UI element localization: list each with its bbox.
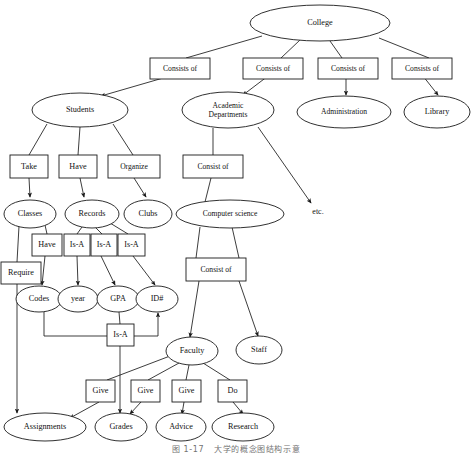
node-label: Assignments <box>24 422 66 431</box>
node-assignments[interactable]: Assignments <box>4 413 86 441</box>
node-label: Staff <box>251 345 267 354</box>
node-faculty[interactable]: Faculty <box>166 337 218 365</box>
relation-box-consists3[interactable]: Consists of <box>318 58 378 79</box>
edge-gpa-to-isa4 <box>119 312 120 324</box>
node-label: Consists of <box>405 64 439 73</box>
node-acad_dept[interactable]: AcademicDepartments <box>182 92 274 128</box>
node-year[interactable]: year <box>58 286 98 312</box>
edge-consist1-to-compsci <box>205 178 211 202</box>
node-gpa[interactable]: GPA <box>97 286 139 312</box>
node-organize[interactable]: Organize <box>108 155 160 178</box>
node-do[interactable]: Do <box>218 380 247 402</box>
node-label: Is-A <box>113 330 128 339</box>
relation-box-consists1[interactable]: Consists of <box>150 58 210 79</box>
node-label: Give <box>179 386 195 395</box>
node-isa1[interactable]: Is-A <box>64 234 90 256</box>
node-label: Consists of <box>256 64 290 73</box>
node-label: Organize <box>120 162 148 171</box>
node-consist1[interactable]: Consist of <box>183 155 243 178</box>
node-isa2[interactable]: Is-A <box>91 234 117 256</box>
figure-caption-text: 大学的概念图结构示意 <box>214 445 300 454</box>
node-have1[interactable]: Have <box>59 155 97 178</box>
edge-college-to-consists1 <box>186 36 262 58</box>
node-have2[interactable]: Have <box>32 234 62 256</box>
relation-box-consists4[interactable]: Consists of <box>392 58 452 79</box>
edge-give1-to-assignments <box>70 402 99 418</box>
node-students[interactable]: Students <box>32 93 128 127</box>
node-advice[interactable]: Advice <box>156 413 206 441</box>
node-layer: Consists ofConsists ofConsists ofConsist… <box>1 5 470 441</box>
node-label: College <box>307 18 333 27</box>
node-idnum[interactable]: ID# <box>136 286 178 312</box>
edge-give3-to-advice <box>182 402 184 414</box>
node-label: AcademicDepartments <box>209 101 248 119</box>
concept-map-diagram: Consists ofConsists ofConsists ofConsist… <box>0 0 472 454</box>
edge-faculty-to-give1 <box>107 356 170 380</box>
node-label: Take <box>21 162 37 171</box>
node-label: Classes <box>18 209 43 218</box>
edge-compsci-to-consist2 <box>196 227 200 258</box>
edge-isa2-to-gpa <box>101 256 115 285</box>
node-classes[interactable]: Classes <box>4 200 56 228</box>
node-codes[interactable]: Codes <box>16 286 62 312</box>
edge-have2-to-codes <box>42 256 45 285</box>
node-label: Research <box>228 422 258 431</box>
figure-caption: 图 1-17大学的概念图结构示意 <box>0 443 472 454</box>
node-label: Consist of <box>197 162 228 171</box>
edge-compsci-to-consist2b <box>232 227 239 258</box>
node-label: Administration <box>321 107 367 116</box>
edge-students-to-have1 <box>78 127 80 155</box>
node-isa4[interactable]: Is-A <box>107 324 134 346</box>
node-label: Require <box>8 268 34 277</box>
node-label: Is-A <box>97 240 112 249</box>
node-administration[interactable]: Administration <box>297 96 391 128</box>
free-text-layer: etc. <box>312 207 323 216</box>
node-label: Grades <box>109 422 132 431</box>
node-label: Have <box>69 162 87 171</box>
free-text-etc: etc. <box>312 207 323 216</box>
node-compsci[interactable]: Computer science <box>176 200 284 228</box>
relation-box-consists2[interactable]: Consists of <box>243 58 303 79</box>
node-label: Consists of <box>163 64 197 73</box>
edge-faculty-to-do <box>203 363 230 380</box>
edge-classes-to-require <box>17 226 19 262</box>
node-label: Do <box>227 386 237 395</box>
node-label: Have <box>38 240 56 249</box>
figure-caption-number: 图 1-17 <box>172 445 204 454</box>
node-clubs[interactable]: Clubs <box>124 200 172 228</box>
edge-classes-to-have2 <box>45 225 47 234</box>
node-label: Give <box>93 386 109 395</box>
node-give3[interactable]: Give <box>172 380 201 402</box>
node-staff[interactable]: Staff <box>236 336 282 364</box>
edge-faculty-to-give2 <box>148 363 179 380</box>
edge-do-to-research <box>233 402 243 414</box>
node-college[interactable]: College <box>250 5 390 41</box>
edge-give2-to-grades <box>130 402 141 414</box>
node-give2[interactable]: Give <box>131 380 160 402</box>
node-label: Students <box>66 105 94 114</box>
edge-consist2-to-faculty <box>190 281 199 337</box>
node-records[interactable]: Records <box>65 200 119 228</box>
node-isa3[interactable]: Is-A <box>118 234 145 256</box>
node-label: Library <box>425 107 450 116</box>
figure-canvas: Consists ofConsists ofConsists ofConsist… <box>0 0 472 454</box>
node-label: Consists of <box>331 64 365 73</box>
node-label: Codes <box>29 294 49 303</box>
node-consist2[interactable]: Consist of <box>186 258 246 281</box>
node-label: Records <box>79 209 106 218</box>
node-research[interactable]: Research <box>212 413 274 441</box>
node-require[interactable]: Require <box>1 262 41 284</box>
node-label: ID# <box>151 294 164 303</box>
node-label: Give <box>138 386 154 395</box>
edge-records-to-isa3 <box>110 223 128 234</box>
node-give1[interactable]: Give <box>86 380 115 402</box>
node-label: Faculty <box>180 346 205 355</box>
edge-take-to-classes <box>29 178 30 197</box>
node-grades[interactable]: Grades <box>95 413 147 441</box>
node-take[interactable]: Take <box>10 155 48 178</box>
edge-students-to-organize <box>113 124 133 155</box>
edge-students-to-take <box>29 124 47 155</box>
node-label: Consist of <box>200 265 231 274</box>
node-library[interactable]: Library <box>404 96 470 128</box>
node-label: Clubs <box>138 209 157 218</box>
